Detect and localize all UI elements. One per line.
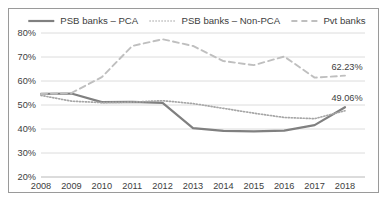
legend-label-pvt-banks: Pvt banks [323, 15, 365, 26]
x-tick-label: 2016 [274, 181, 294, 191]
x-tick-label: 2011 [122, 181, 142, 191]
y-tick-label: 50% [18, 100, 36, 110]
line-chart: 20%30%40%50%60%70%80%2008200920102011201… [0, 0, 387, 201]
x-axis-labels: 2008200920102011201220132014201520162017… [31, 181, 355, 191]
series-line-pvt-banks [41, 39, 345, 94]
x-tick-label: 2012 [152, 181, 172, 191]
series-line-psb-banks-pca [41, 93, 345, 131]
y-tick-label: 40% [18, 124, 36, 134]
y-tick-label: 80% [18, 28, 36, 38]
y-axis-labels: 20%30%40%50%60%70%80% [18, 28, 36, 182]
pvt-banks-end-label: 62.23% [331, 62, 362, 72]
x-tick-label: 2008 [31, 181, 51, 191]
y-tick-label: 30% [18, 148, 36, 158]
chart-container: 20%30%40%50%60%70%80%2008200920102011201… [0, 0, 387, 201]
x-tick-label: 2013 [183, 181, 203, 191]
legend-label-psb-banks-pca: PSB banks – PCA [60, 15, 138, 26]
x-tick-label: 2014 [213, 181, 233, 191]
x-tick-label: 2009 [61, 181, 81, 191]
x-tick-label: 2017 [304, 181, 324, 191]
data-labels-group: 62.23%49.06% [331, 62, 362, 104]
psb-pca-end-label: 49.06% [331, 93, 362, 103]
x-tick-label: 2018 [335, 181, 355, 191]
x-tick-label: 2015 [244, 181, 264, 191]
legend: PSB banks – PCAPSB banks – Non-PCAPvt ba… [28, 15, 365, 26]
legend-label-psb-banks-non-pca: PSB banks – Non-PCA [182, 15, 281, 26]
y-tick-label: 70% [18, 52, 36, 62]
y-tick-label: 60% [18, 76, 36, 86]
series-group [41, 39, 345, 131]
x-tick-label: 2010 [92, 181, 112, 191]
